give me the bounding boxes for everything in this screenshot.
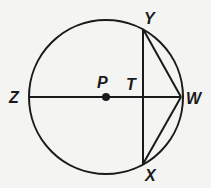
center-point-P xyxy=(102,93,110,101)
label-Y: Y xyxy=(144,10,156,27)
label-P: P xyxy=(97,74,108,91)
geometry-diagram: Z P T W Y X xyxy=(0,0,211,188)
label-X: X xyxy=(144,167,157,184)
label-W: W xyxy=(186,90,203,107)
label-Z: Z xyxy=(8,89,20,106)
circle-diagram-svg: Z P T W Y X xyxy=(0,0,211,188)
label-T: T xyxy=(126,76,137,93)
